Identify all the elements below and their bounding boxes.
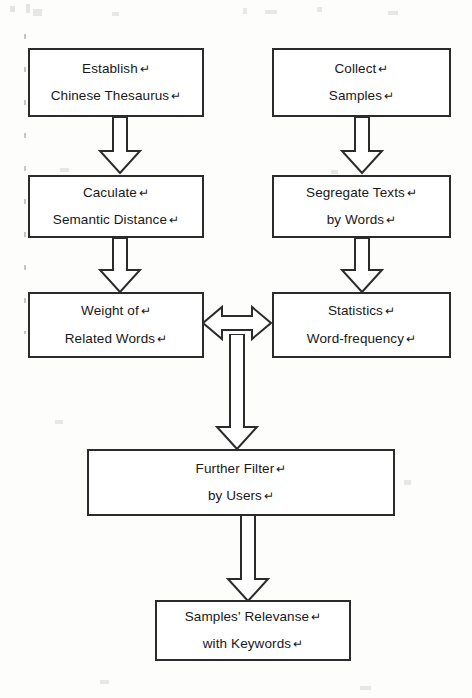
arrow-establish-to-caculate [98,117,142,175]
node-weight-line-2: Related Words↵ [65,332,167,346]
cr-glyph: ↵ [405,186,417,200]
cr-glyph: ↵ [376,62,388,76]
node-collect-line-1: Collect↵ [334,62,388,76]
cr-glyph: ↵ [382,89,394,103]
node-caculate-line-2: Semantic Distance↵ [53,213,179,227]
node-samples-relevanse-line-2: with Keywords↵ [203,637,303,651]
node-statistics-line-1: Statistics↵ [328,304,395,318]
cr-glyph: ↵ [169,89,181,103]
node-caculate[interactable]: Caculate↵ Semantic Distance↵ [28,175,204,238]
cr-glyph: ↵ [262,489,274,503]
node-segregate[interactable]: Segregate Texts↵ by Words↵ [272,175,451,238]
scan-speckle [33,9,42,16]
node-establish[interactable]: Establish↵ Chinese Thesaurus↵ [28,48,204,117]
arrow-filter-to-relevanse [225,515,271,603]
node-collect-line-2: Samples↵ [329,89,394,103]
scan-speckle [60,168,69,172]
arrow-segregate-to-statistics [340,238,384,294]
node-segregate-line-1: Segregate Texts↵ [306,186,417,200]
scan-speckle [55,420,63,424]
scan-speckle [243,8,247,14]
scan-speckle [388,11,398,15]
cr-glyph: ↵ [138,62,150,76]
node-further-filter-line-1: Further Filter↵ [196,462,287,476]
node-statistics-line-2: Word-frequency↵ [307,332,416,346]
node-collect[interactable]: Collect↵ Samples↵ [272,48,451,117]
node-further-filter[interactable]: Further Filter↵ by Users↵ [87,449,395,516]
scan-speckle [265,10,277,14]
cr-glyph: ↵ [404,332,416,346]
node-establish-line-2: Chinese Thesaurus↵ [51,89,182,103]
scan-speckle [112,12,119,16]
cr-glyph: ↵ [309,610,321,624]
arrow-collect-to-segregate [340,117,384,175]
scan-speckle [26,4,30,13]
scan-speckle [331,170,338,174]
scan-speckle [404,480,411,485]
arrow-link-to-filter [214,334,260,451]
node-samples-relevanse[interactable]: Samples' Relevanse↵ with Keywords↵ [155,600,351,661]
scan-speckle [100,680,109,684]
scan-speckle [317,7,322,12]
scan-speckle [360,686,371,690]
node-segregate-line-2: by Words↵ [327,213,397,227]
node-further-filter-line-2: by Users↵ [208,489,274,503]
cr-glyph: ↵ [139,304,151,318]
node-caculate-line-1: Caculate↵ [83,186,149,200]
scan-margin-artifact [24,34,26,334]
cr-glyph: ↵ [167,213,179,227]
cr-glyph: ↵ [384,213,396,227]
node-weight-line-1: Weight of↵ [81,304,151,318]
cr-glyph: ↵ [274,462,286,476]
cr-glyph: ↵ [291,637,303,651]
node-weight[interactable]: Weight of↵ Related Words↵ [28,292,204,358]
node-samples-relevanse-line-1: Samples' Relevanse↵ [185,610,322,624]
cr-glyph: ↵ [383,304,395,318]
flowchart-canvas: Establish↵ Chinese Thesaurus↵ Collect↵ S… [0,0,472,698]
scan-speckle [10,6,15,12]
cr-glyph: ↵ [155,332,167,346]
arrow-caculate-to-weight [98,238,142,294]
node-establish-line-1: Establish↵ [82,62,150,76]
node-statistics[interactable]: Statistics↵ Word-frequency↵ [272,292,451,358]
cr-glyph: ↵ [137,186,149,200]
